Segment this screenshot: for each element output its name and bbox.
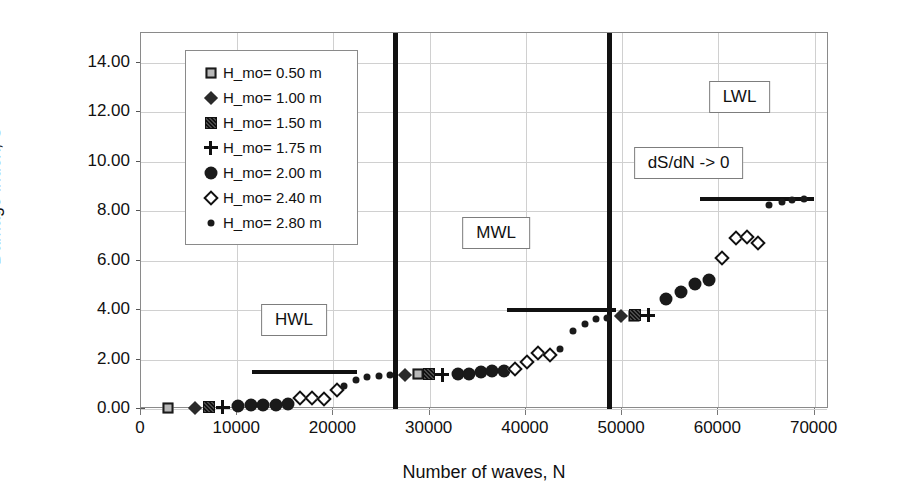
- gridline-horizontal: [141, 310, 827, 311]
- marker-dot-small-icon: [375, 372, 382, 379]
- gridline-vertical: [430, 33, 431, 407]
- marker-plus-icon: [435, 368, 449, 382]
- legend-item: H_mo= 2.80 m: [186, 210, 357, 235]
- legend-item: H_mo= 1.50 m: [186, 110, 357, 135]
- x-axis-label: Number of waves, N: [402, 462, 565, 483]
- legend-swatch: [203, 165, 218, 180]
- y-axis-tick-label: 4.00: [56, 299, 130, 319]
- marker-circle-filled-icon: [674, 285, 687, 298]
- gridline-vertical: [815, 33, 816, 407]
- marker-diamond-filled-icon: [188, 401, 202, 415]
- marker-diamond-open-icon: [316, 391, 332, 407]
- marker-square-dark-icon: [203, 401, 215, 413]
- legend-item-label: H_mo= 2.80 m: [223, 214, 322, 231]
- legend-item-label: H_mo= 0.50 m: [223, 64, 322, 81]
- region-separator: [393, 33, 398, 409]
- y-axis-tick-label: 12.00: [56, 101, 130, 121]
- x-axis-tick-label: 60000: [694, 418, 741, 438]
- marker-diamond-open-icon: [714, 250, 730, 266]
- marker-dot-small-icon: [766, 201, 773, 208]
- marker-circle-filled-icon: [244, 399, 257, 412]
- x-axis-tick-label: 40000: [501, 418, 548, 438]
- marker-circle-filled-icon: [689, 278, 702, 291]
- legend-item-label: H_mo= 2.40 m: [223, 189, 322, 206]
- reference-line: [700, 197, 814, 201]
- legend-item-label: H_mo= 2.00 m: [223, 164, 322, 181]
- marker-dot-small-icon: [789, 196, 796, 203]
- marker-dot-small-icon: [800, 196, 807, 203]
- marker-square-dark-icon: [629, 309, 641, 321]
- marker-square-dark-icon: [205, 117, 217, 129]
- x-axis-tick-label: 50000: [597, 418, 644, 438]
- marker-dot-small-icon: [593, 316, 600, 323]
- y-axis-tick-label: 8.00: [56, 200, 130, 220]
- legend-item: H_mo= 1.75 m: [186, 135, 357, 160]
- legend-item: H_mo= 2.40 m: [186, 185, 357, 210]
- legend-swatch: [203, 65, 218, 80]
- marker-diamond-filled-icon: [203, 90, 217, 104]
- x-axis-tick-label: 30000: [405, 418, 452, 438]
- x-axis-tick-label: 10000: [213, 418, 260, 438]
- y-axis-tick-label: 0.00: [56, 398, 130, 418]
- legend-item-label: H_mo= 1.00 m: [223, 89, 322, 106]
- marker-dot-small-icon: [603, 314, 610, 321]
- marker-square-light-icon: [205, 67, 216, 78]
- reference-line: [507, 308, 617, 312]
- legend-swatch: [203, 215, 218, 230]
- gridline-vertical: [622, 33, 623, 407]
- legend-item: H_mo= 1.00 m: [186, 85, 357, 110]
- marker-plus-icon: [204, 141, 218, 155]
- marker-plus-icon: [216, 400, 230, 414]
- annotation-box: MWL: [462, 217, 530, 249]
- marker-circle-filled-icon: [660, 292, 673, 305]
- marker-square-light-icon: [162, 402, 173, 413]
- reference-line: [252, 370, 357, 374]
- annotation-box: LWL: [709, 81, 771, 113]
- marker-dot-small-icon: [581, 321, 588, 328]
- y-axis-tick-label: 14.00: [56, 52, 130, 72]
- annotation-box: dS/dN -> 0: [634, 147, 744, 179]
- marker-diamond-open-icon: [203, 190, 219, 206]
- marker-dot-small-icon: [570, 328, 577, 335]
- y-axis-tick-label: 6.00: [56, 250, 130, 270]
- marker-plus-icon: [641, 308, 655, 322]
- x-axis-tick-label: 20000: [309, 418, 356, 438]
- legend-item: H_mo= 0.50 m: [186, 60, 357, 85]
- x-axis-tick-label: 0: [135, 418, 144, 438]
- marker-circle-filled-icon: [257, 399, 270, 412]
- gridline-horizontal: [141, 409, 827, 410]
- x-axis-tick-label: 70000: [790, 418, 837, 438]
- marker-diamond-filled-icon: [398, 368, 412, 382]
- marker-dot-small-icon: [207, 219, 214, 226]
- marker-circle-filled-icon: [702, 274, 715, 287]
- y-axis-tick-label: 10.00: [56, 151, 130, 171]
- gridline-horizontal: [141, 360, 827, 361]
- annotation-box: HWL: [261, 304, 327, 336]
- legend-swatch: [203, 140, 218, 155]
- y-axis-tick-label: 2.00: [56, 349, 130, 369]
- marker-dot-small-icon: [364, 373, 371, 380]
- y-axis-label: Damage index, S: [0, 66, 5, 326]
- marker-dot-small-icon: [352, 376, 359, 383]
- legend-item-label: H_mo= 1.50 m: [223, 114, 322, 131]
- marker-dot-small-icon: [556, 346, 563, 353]
- legend-item: H_mo= 2.00 m: [186, 160, 357, 185]
- marker-circle-filled-icon: [232, 400, 245, 413]
- marker-circle-filled-icon: [269, 398, 282, 411]
- region-separator: [607, 33, 612, 409]
- marker-dot-small-icon: [778, 199, 785, 206]
- marker-circle-filled-icon: [204, 166, 217, 179]
- legend-item-label: H_mo= 1.75 m: [223, 139, 322, 156]
- legend-swatch: [203, 190, 218, 205]
- marker-dot-small-icon: [387, 371, 394, 378]
- chart-legend: H_mo= 0.50 mH_mo= 1.00 mH_mo= 1.50 mH_mo…: [185, 50, 358, 245]
- legend-swatch: [203, 90, 218, 105]
- chart-figure: Damage index, S Number of waves, N 0.002…: [0, 0, 899, 502]
- marker-dot-small-icon: [341, 383, 348, 390]
- legend-swatch: [203, 115, 218, 130]
- marker-square-dark-icon: [423, 368, 435, 380]
